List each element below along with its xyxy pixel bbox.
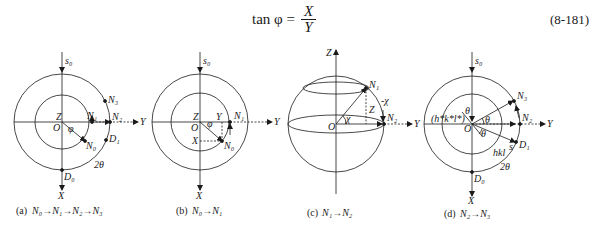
label-n0: N₀ <box>223 140 235 151</box>
caption-b: N₀→N₁ <box>191 205 222 216</box>
label-n1: N₁ <box>233 110 244 121</box>
label-d1: D₁ <box>518 139 530 150</box>
label-d1: D₁ <box>108 133 120 144</box>
label-s: s <box>509 141 513 152</box>
label-z: Z <box>56 111 62 122</box>
label-s0: s₀ <box>475 55 483 66</box>
label-o: O <box>191 122 198 133</box>
label-n0: N₀ <box>85 140 97 151</box>
label-y: Y <box>547 118 554 129</box>
caption-a: N₀→N₁→N₂→N₃ <box>31 205 103 216</box>
d1-point <box>105 139 108 142</box>
label-2theta: 2θ <box>94 159 104 170</box>
n3-point <box>104 100 107 103</box>
panel-d-labels: s₀ θ (h*k*l*) O θ θ s N₃ N₂ D₁ hkl 2θ D₀… <box>431 55 554 220</box>
label-z-axis: Z <box>326 47 332 58</box>
label-x-component: X <box>191 135 199 146</box>
label-o: O <box>464 123 471 134</box>
label-n3: N₃ <box>107 94 119 105</box>
label-n2: N₂ <box>111 111 123 122</box>
label-d0: D₀ <box>473 173 485 184</box>
label-n1: N₁ <box>368 79 379 90</box>
panel-a-labels: s₀ Z O φ N₀ N₁ N₂ N₃ D₁ 2θ D₀ X Y (a) N₀… <box>16 55 147 217</box>
label-hkl: hkl <box>493 147 505 158</box>
label-2theta: 2θ <box>500 161 510 172</box>
label-y-component: Y <box>216 111 223 122</box>
label-phi: φ <box>207 118 213 129</box>
d1-vector <box>472 124 515 142</box>
label-n2: N₂ <box>521 112 533 123</box>
caption-prefix: (d) <box>444 208 456 220</box>
n2-point <box>383 123 386 126</box>
diagram-canvas: s₀ Z O φ N₀ N₁ N₂ N₃ D₁ 2θ D₀ X Y (a) N₀… <box>0 0 603 228</box>
panel-b-labels: s₀ Z O φ Y X N₀ N₁ X Y (b) N₀→N₁ <box>176 55 281 217</box>
n3-point <box>513 100 516 103</box>
label-z: Z <box>193 111 199 122</box>
n1-point <box>365 87 368 90</box>
label-n1: N₁ <box>86 110 97 121</box>
label-theta-1: θ <box>485 114 490 125</box>
d1-point <box>515 141 518 144</box>
label-minus-chi: -χ <box>381 95 389 106</box>
label-y: Y <box>140 116 147 127</box>
label-x: X <box>57 190 65 201</box>
caption-prefix: (b) <box>176 205 188 217</box>
caption-d: N₂→N₃ <box>459 208 491 219</box>
n3-vector <box>472 101 513 124</box>
label-x: X <box>195 190 203 201</box>
theta-arc-upper <box>482 118 484 124</box>
label-s0: s₀ <box>65 55 73 66</box>
label-phi: φ <box>68 123 74 134</box>
label-y: Y <box>414 118 421 129</box>
label-d0: D₀ <box>63 171 75 182</box>
label-theta-2: θ <box>481 128 486 139</box>
label-s0: s₀ <box>203 55 211 66</box>
label-chi: χ <box>345 113 351 124</box>
label-o: O <box>53 122 60 133</box>
label-n2: N₂ <box>386 112 398 123</box>
caption-prefix: (c) <box>307 207 318 219</box>
label-reciprocal-hkl: (h*k*l*) <box>431 113 466 125</box>
label-theta-top: θ <box>465 105 470 116</box>
label-o: O <box>328 121 335 132</box>
label-x: X <box>467 195 475 206</box>
label-y: Y <box>274 116 281 127</box>
label-z-component: Z <box>369 104 375 115</box>
label-n3: N₃ <box>516 90 528 101</box>
caption-c: N₁→N₂ <box>321 207 353 218</box>
caption-prefix: (a) <box>16 205 27 217</box>
n1-point <box>229 121 232 124</box>
